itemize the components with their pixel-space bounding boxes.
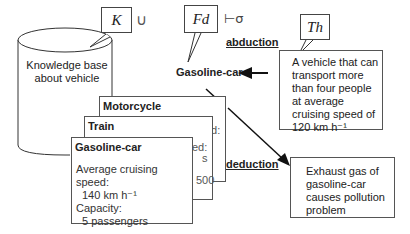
card-gasoline-car: Gasoline-car Average cruising speed: 140… xyxy=(71,137,193,224)
hypothesis-line: cruising speed of xyxy=(292,108,382,121)
deduction-arrow xyxy=(228,108,283,159)
hypothesis-line: A vehicle that can xyxy=(292,56,382,69)
conclusion-line: gasoline-car xyxy=(306,178,394,191)
knowledge-base-label-line2: about vehicle xyxy=(24,72,110,85)
th-symbol-box: Th xyxy=(300,14,330,40)
hypothesis-line: transport more xyxy=(292,69,382,82)
conclusion-box: Exhaust gas of gasoline-car causes pollu… xyxy=(290,157,395,218)
hypothesis-line: at average xyxy=(292,95,382,108)
speed-value: 140 km h⁻¹ xyxy=(76,189,192,202)
union-symbol: ∪ xyxy=(136,11,147,29)
deduction-label: deduction xyxy=(226,158,279,170)
hypothesis-line: 120 km h⁻¹ xyxy=(292,121,382,134)
knowledge-base-label: Knowledge base about vehicle xyxy=(24,59,110,85)
conclusion-line: Exhaust gas of xyxy=(306,165,394,178)
conclusion-line: causes pollution xyxy=(306,191,394,204)
card-train-peek-3: 500 xyxy=(196,174,214,187)
capacity-value: 5 passengers xyxy=(76,215,192,228)
speed-label: Average cruising speed: xyxy=(76,163,192,189)
card-train-title: Train xyxy=(85,117,212,132)
fd-callout-pointer xyxy=(188,33,201,62)
card-gasoline-car-title: Gasoline-car xyxy=(72,138,192,153)
conclusion-line: problem xyxy=(306,204,394,217)
card-train-peek-2: s xyxy=(202,152,208,165)
hypothesis-box: A vehicle that can transport more than f… xyxy=(279,50,383,130)
card-motorcycle-title: Motorcycle xyxy=(100,97,225,112)
knowledge-base-label-line1: Knowledge base xyxy=(24,59,110,72)
entails-symbol: ⊢σ xyxy=(224,11,244,26)
abduction-label: abduction xyxy=(226,36,279,48)
fd-symbol-box: Fd xyxy=(184,5,218,33)
gasoline-car-label: Gasoline-car xyxy=(176,66,243,78)
hypothesis-line: than four people xyxy=(292,82,382,95)
capacity-label: Capacity: xyxy=(76,202,192,215)
k-symbol-box: K xyxy=(101,7,132,33)
